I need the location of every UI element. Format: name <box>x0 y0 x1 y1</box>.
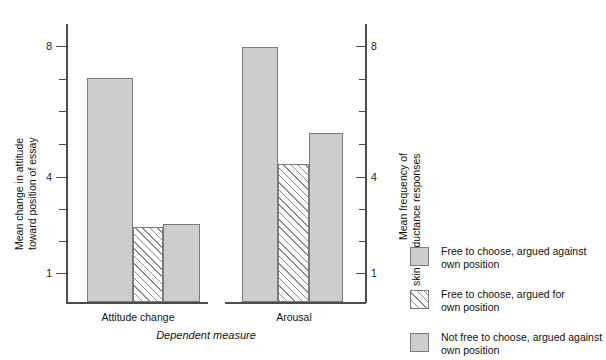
legend-item: Free to choose, argued against own posit… <box>410 246 600 276</box>
left-axis-title-line1: Mean change in attitude <box>13 138 26 250</box>
bar-group1-series3 <box>163 224 200 302</box>
bar-group1-series1 <box>87 78 133 302</box>
baseline-group-2 <box>225 302 366 304</box>
left-axis-tick <box>56 273 66 274</box>
right-axis-tick <box>359 79 366 80</box>
bar-group2-series2 <box>278 164 309 302</box>
baseline-group-1 <box>66 302 208 304</box>
left-axis-label-1: 1 <box>28 268 52 278</box>
left-axis-label-8: 8 <box>28 41 52 51</box>
legend-label-1: Free to choose, argued against own posit… <box>441 245 606 270</box>
right-axis-tick <box>359 241 366 242</box>
legend-label-3-line1: Not free to choose, argued against <box>441 331 606 344</box>
left-axis-title-line2: toward position of essay <box>26 137 39 250</box>
right-axis-tick <box>359 209 366 210</box>
right-axis-tick <box>356 273 366 274</box>
legend-swatch-solid-gray-1 <box>410 247 429 266</box>
left-axis-tick <box>59 241 66 242</box>
left-axis-tick <box>59 111 66 112</box>
right-axis-tick <box>356 177 366 178</box>
right-axis-tick <box>356 46 366 47</box>
right-axis-tick <box>359 144 366 145</box>
legend: Free to choose, argued against own posit… <box>410 246 600 360</box>
legend-label-1-line2: own position <box>441 258 606 271</box>
legend-swatch-solid-gray-2 <box>410 333 429 352</box>
right-axis-label-1: 1 <box>371 268 395 278</box>
right-axis-line <box>365 24 367 303</box>
legend-item: Not free to choose, argued against own p… <box>410 332 600 360</box>
legend-label-2: Free to choose, argued for own position <box>441 288 606 313</box>
right-axis-tick <box>359 111 366 112</box>
right-axis-title-line1: Mean frequency of <box>397 153 410 240</box>
legend-item: Free to choose, argued for own position <box>410 289 600 319</box>
left-axis-tick <box>59 209 66 210</box>
legend-label-2-line1: Free to choose, argued for <box>441 288 606 301</box>
left-axis-tick <box>59 144 66 145</box>
bar-group2-series3 <box>309 133 343 302</box>
bar-group1-series2 <box>133 227 163 302</box>
left-axis-tick <box>56 177 66 178</box>
right-axis-label-4: 4 <box>371 172 395 182</box>
bar-group2-series1 <box>242 47 278 302</box>
left-axis-line <box>66 24 68 303</box>
legend-label-1-line1: Free to choose, argued against <box>441 245 606 258</box>
right-axis-label-8: 8 <box>371 41 395 51</box>
left-axis-tick <box>56 46 66 47</box>
legend-swatch-hatched <box>410 290 429 309</box>
legend-label-3: Not free to choose, argued against own p… <box>441 331 606 356</box>
x-category-label-arousal: Arousal <box>232 311 356 323</box>
left-axis-tick <box>59 79 66 80</box>
legend-label-2-line2: own position <box>441 301 606 314</box>
legend-label-3-line2: own position <box>441 344 606 357</box>
x-category-label-attitude-change: Attitude change <box>76 311 200 323</box>
x-axis-title: Dependent measure <box>116 329 296 341</box>
